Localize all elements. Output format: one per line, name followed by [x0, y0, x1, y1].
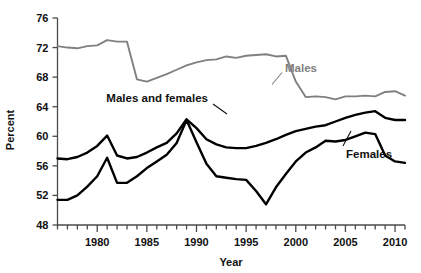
y-tick-label: 72	[36, 42, 48, 54]
y-tick-label: 52	[36, 189, 48, 201]
x-tick-label: 2010	[383, 236, 407, 248]
females-annotation: Females	[346, 148, 392, 160]
x-tick-label: 1990	[184, 236, 208, 248]
x-axis-title: Year	[219, 256, 243, 268]
y-tick-label: 48	[36, 219, 48, 231]
y-tick-label: 60	[36, 130, 48, 142]
y-tick-label: 56	[36, 160, 48, 172]
y-tick-label: 64	[36, 101, 49, 113]
x-tick-label: 1985	[135, 236, 159, 248]
line-chart: 4852566064687276 19801985199019952000200…	[0, 0, 421, 273]
y-tick-label: 76	[36, 12, 48, 24]
x-tick-label: 1980	[85, 236, 109, 248]
chart-canvas: 4852566064687276 19801985199019952000200…	[0, 0, 421, 273]
males-and-females-annotation: Males and females	[106, 92, 208, 104]
males-annotation: Males	[285, 62, 317, 74]
y-tick-label: 68	[36, 71, 48, 83]
x-tick-label: 2005	[333, 236, 357, 248]
x-tick-label: 1995	[234, 236, 258, 248]
y-axis-title: Percent	[4, 109, 16, 150]
x-tick-label: 2000	[284, 236, 308, 248]
